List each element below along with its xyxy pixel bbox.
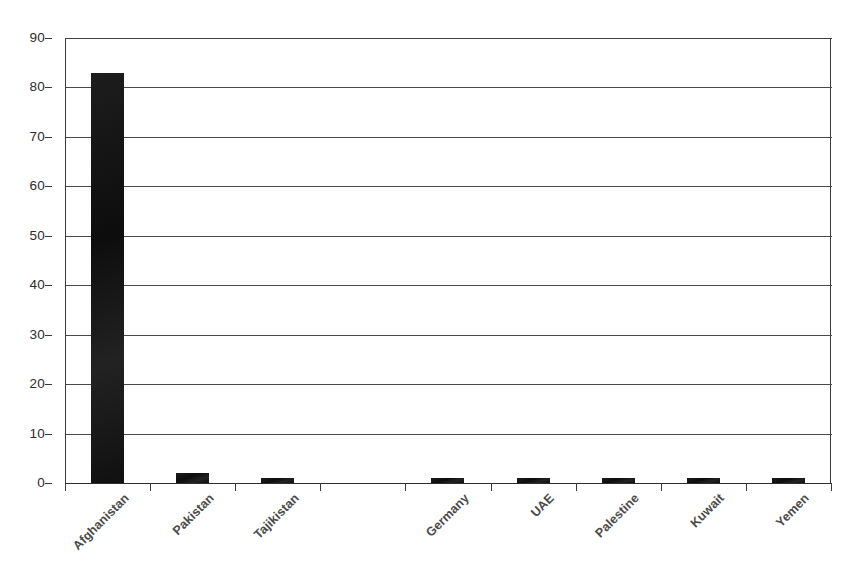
y-tickmark-10 [45, 434, 52, 435]
y-tick-label-90: 90 [13, 30, 45, 45]
bar-chart: 9080706050403020100 AfghanistanPakistanT… [0, 0, 863, 577]
y-tickmark-40 [45, 285, 52, 286]
y-tickmark-80 [45, 87, 52, 88]
y-tickmark-20 [45, 384, 52, 385]
y-tick-label-20: 20 [13, 376, 45, 391]
x-label-pakistan: Pakistan [170, 491, 217, 538]
y-tick-label-50: 50 [13, 228, 45, 243]
y-tick-label-30: 30 [13, 327, 45, 342]
y-tick-label-10: 10 [13, 426, 45, 441]
y-tickmark-70 [45, 137, 52, 138]
x-axis-labels: AfghanistanPakistanTajikistanGermanyUAEP… [0, 483, 863, 577]
y-tickmark-90 [45, 38, 52, 39]
bar-pakistan [176, 473, 209, 483]
x-label-palestine: Palestine [593, 491, 642, 540]
x-label-afghanistan: Afghanistan [70, 491, 132, 553]
x-label-tajikistan: Tajikistan [251, 491, 302, 542]
y-tick-label-60: 60 [13, 178, 45, 193]
x-label-yemen: Yemen [773, 491, 812, 530]
bars-layer [65, 38, 831, 483]
y-axis-labels: 9080706050403020100 [22, 38, 55, 483]
x-label-germany: Germany [423, 491, 472, 540]
y-tickmark-50 [45, 236, 52, 237]
x-label-kuwait: Kuwait [688, 491, 727, 530]
y-tick-label-70: 70 [13, 129, 45, 144]
x-label-uae: UAE [528, 491, 557, 520]
y-tickmark-30 [45, 335, 52, 336]
y-tick-label-40: 40 [13, 277, 45, 292]
y-tickmark-60 [45, 186, 52, 187]
y-tick-label-80: 80 [13, 79, 45, 94]
bar-afghanistan [91, 73, 124, 483]
